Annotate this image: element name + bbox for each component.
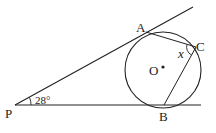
label-angle-x: x (177, 46, 184, 61)
center-dot-o (161, 65, 164, 68)
label-a: A (136, 20, 146, 35)
tangent-line-pa (15, 7, 193, 105)
label-b: B (159, 109, 168, 124)
angle-arc-p (30, 98, 32, 106)
label-p: P (5, 106, 12, 121)
chord-ac (146, 32, 196, 47)
label-c: C (196, 39, 205, 54)
label-o: O (149, 63, 158, 78)
label-angle-p: 28° (35, 94, 50, 106)
circle-o (125, 32, 201, 108)
geometry-diagram: A C B P O 28° x (0, 0, 216, 133)
